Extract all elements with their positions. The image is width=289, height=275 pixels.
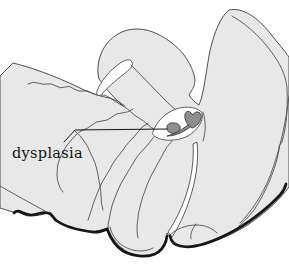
lesion-oval-blob — [167, 123, 180, 133]
cervix-diagram: dysplasia — [0, 0, 289, 275]
dysplasia-label: dysplasia — [12, 145, 83, 161]
diagram-canvas: dysplasia — [0, 0, 289, 275]
